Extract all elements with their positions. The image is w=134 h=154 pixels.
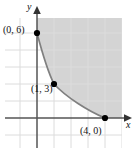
point-label-0-6: (0, 6): [3, 25, 25, 35]
point-label-4-0: (4, 0): [80, 126, 102, 136]
y-axis-arrow-icon: [33, 6, 41, 14]
graph-figure: (0, 6) (1, 3) (4, 0) y x: [0, 0, 134, 154]
y-axis-label: y: [27, 2, 31, 12]
data-point-marker: [102, 115, 108, 121]
x-axis-label: x: [126, 120, 130, 130]
data-point-marker: [34, 30, 40, 36]
point-label-1-3: (1, 3): [31, 84, 53, 94]
